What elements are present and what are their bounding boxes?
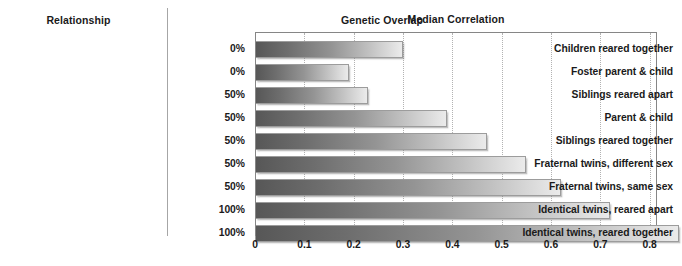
plot-left-axis bbox=[255, 32, 256, 236]
bar-2 bbox=[255, 87, 368, 104]
bar-4 bbox=[255, 133, 487, 150]
genetic-overlap-label-5: 50% bbox=[173, 158, 245, 169]
relationship-column-header: Relationship bbox=[0, 14, 157, 26]
median-correlation-chart: Relationship Genetic Overlap Median Corr… bbox=[0, 0, 682, 266]
x-tick-0.2: 0.2 bbox=[346, 239, 360, 250]
x-tick-0.6: 0.6 bbox=[544, 239, 558, 250]
relationship-label-8: Identical twins, reared together bbox=[519, 227, 673, 238]
x-tick-0.8: 0.8 bbox=[642, 239, 656, 250]
bar-5 bbox=[255, 156, 526, 173]
x-tick-0.4: 0.4 bbox=[445, 239, 459, 250]
chart-title: Median Correlation bbox=[255, 13, 657, 25]
x-tick-0: 0 bbox=[252, 239, 258, 250]
relationship-label-2: Siblings reared apart bbox=[519, 89, 673, 100]
genetic-overlap-label-8: 100% bbox=[173, 227, 245, 238]
relationship-label-7: Identical twins, reared apart bbox=[519, 204, 673, 215]
bar-6 bbox=[255, 179, 561, 196]
genetic-overlap-label-6: 50% bbox=[173, 181, 245, 192]
relationship-label-5: Fraternal twins, different sex bbox=[519, 158, 673, 169]
bar-3 bbox=[255, 110, 447, 127]
x-tick-0.5: 0.5 bbox=[494, 239, 508, 250]
relationship-label-6: Fraternal twins, same sex bbox=[519, 181, 673, 192]
genetic-overlap-label-3: 50% bbox=[173, 112, 245, 123]
relationship-column: Relationship bbox=[0, 0, 163, 266]
genetic-overlap-label-7: 100% bbox=[173, 204, 245, 215]
x-tick-0.1: 0.1 bbox=[297, 239, 311, 250]
genetic-overlap-label-1: 0% bbox=[173, 66, 245, 77]
relationship-label-3: Parent & child bbox=[519, 112, 673, 123]
genetic-overlap-label-4: 50% bbox=[173, 135, 245, 146]
bar-0 bbox=[255, 41, 403, 58]
relationship-label-1: Foster parent & child bbox=[519, 66, 673, 77]
genetic-overlap-label-2: 50% bbox=[173, 89, 245, 100]
genetic-overlap-label-0: 0% bbox=[173, 43, 245, 54]
x-tick-0.3: 0.3 bbox=[396, 239, 410, 250]
column-divider bbox=[167, 8, 168, 236]
relationship-label-0: Children reared together bbox=[519, 43, 673, 54]
x-tick-0.7: 0.7 bbox=[593, 239, 607, 250]
bar-1 bbox=[255, 64, 349, 81]
relationship-label-4: Siblings reared together bbox=[519, 135, 673, 146]
